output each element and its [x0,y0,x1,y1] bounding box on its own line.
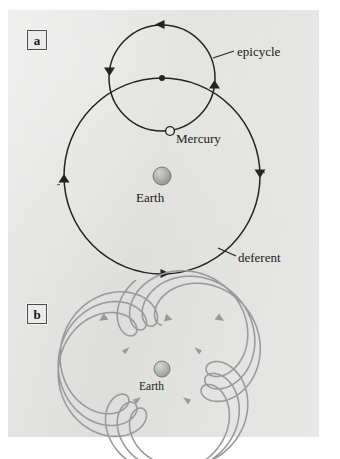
figure-svg-generated [0,0,340,459]
panel-label-b: b [27,304,47,324]
panel-label-a: a [27,30,47,50]
figure-canvas: a b epicycle Mercury Earth deferent Eart… [0,0,340,459]
earth-label-panel-a: Earth [136,190,164,206]
epicycle-label: epicycle [237,44,280,60]
deferent-label: deferent [238,250,281,266]
mercury-label: Mercury [176,131,221,147]
earth-label-panel-b: Earth [139,380,164,392]
mercury-loop-path-generated [58,271,260,459]
